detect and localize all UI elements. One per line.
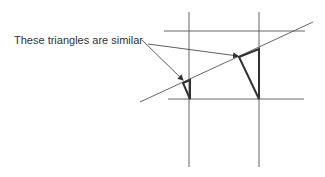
arrow-to-large-triangle xyxy=(148,44,238,56)
large-triangle xyxy=(239,49,259,99)
transversal-line xyxy=(140,22,313,102)
similar-triangles-label: These triangles are similar xyxy=(14,34,143,46)
geometry-diagram xyxy=(0,0,325,177)
